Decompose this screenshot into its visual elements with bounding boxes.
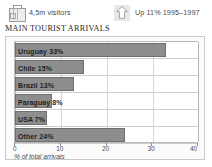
x-tick-label-30: 30 [148, 145, 155, 152]
x-tick-label-10: 10 [56, 145, 63, 152]
stat-visitors-label: 4,5m visitors [29, 8, 71, 17]
bar-row: Chile 15% [15, 59, 198, 76]
gridline-40 [198, 42, 199, 142]
bar-label: Paraguay 8% [18, 98, 63, 105]
bar-label: Chile 15% [18, 64, 52, 71]
bar-label: USA 7% [18, 115, 45, 122]
bar-row: Brazil 13% [15, 76, 198, 93]
bar-rows: Uruguay 33%Chile 15%Brazil 13%Paraguay 8… [15, 42, 198, 142]
chart-panel: Uruguay 33%Chile 15%Brazil 13%Paraguay 8… [5, 36, 205, 160]
x-tick-label-0: 0 [13, 145, 17, 152]
stat-growth: Up 11% 1995–1997 [114, 2, 200, 22]
x-tick-label-40: 40 [190, 145, 197, 152]
axis-caption: % of total arrivals [14, 153, 65, 160]
x-tick-40 [197, 143, 198, 146]
tourism-infographic: 4,5m visitors Up 11% 1995–1997 MAIN TOUR… [0, 0, 212, 167]
bar-label: Other 24% [18, 132, 54, 139]
up-arrow-icon [114, 4, 131, 21]
bar-row: Paraguay 8% [15, 93, 198, 110]
stat-growth-label: Up 11% 1995–1997 [135, 8, 200, 17]
x-tick-label-20: 20 [102, 145, 109, 152]
chart-plot-area: Uruguay 33%Chile 15%Brazil 13%Paraguay 8… [14, 41, 198, 143]
bar-row: USA 7% [15, 110, 198, 127]
stat-visitors: 4,5m visitors [8, 2, 71, 22]
bar-label: Brazil 13% [18, 81, 54, 88]
bar-row: Uruguay 33% [15, 42, 198, 59]
suitcase-icon [8, 4, 25, 21]
header-stats: 4,5m visitors Up 11% 1995–1997 [4, 2, 210, 22]
bar-row: Other 24% [15, 127, 198, 144]
bar-label: Uruguay 33% [18, 47, 63, 54]
page-title: MAIN TOURIST ARRIVALS [5, 24, 110, 33]
